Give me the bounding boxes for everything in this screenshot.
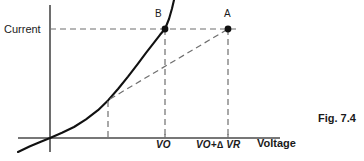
plot-canvas: [0, 0, 364, 161]
figure-caption: Fig. 7.4: [318, 113, 356, 124]
x-axis-label: Voltage: [257, 138, 296, 149]
point-label-b: B: [155, 9, 162, 19]
point-a-marker: [225, 26, 232, 33]
x-tick-label-v0-plus-delta-vr: VO+∆ VR: [196, 140, 240, 150]
chord-line: [110, 29, 228, 99]
point-b-marker: [162, 26, 169, 33]
y-axis-label: Current: [4, 24, 41, 35]
point-label-a: A: [224, 9, 231, 19]
characteristic-curve: [18, 0, 174, 152]
x-tick-label-v0: VO: [156, 140, 171, 150]
figure-container: Current Voltage VO VO+∆ VR A B Fig. 7.4: [0, 0, 364, 161]
